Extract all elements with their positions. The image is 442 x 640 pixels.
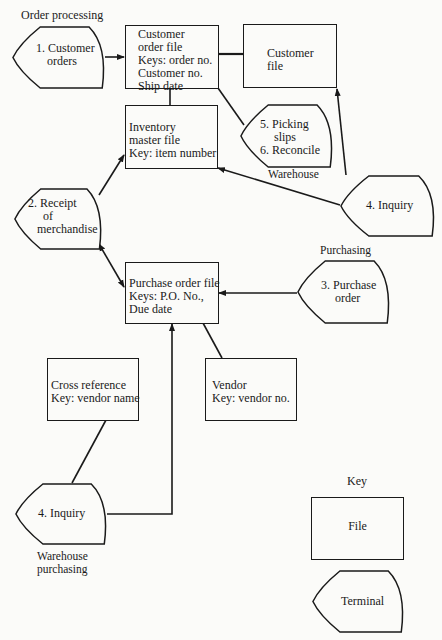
file-customer-file[interactable]: Customer file <box>243 24 337 88</box>
label-line: Warehouse <box>37 550 88 563</box>
terminal-text-line: orders <box>36 55 95 68</box>
file-inventory-master-file[interactable]: Inventory master file Key: item number <box>125 105 218 169</box>
file-customer-order-file[interactable]: Customer order file Keys: order no. Cust… <box>125 25 219 89</box>
terminal-inquiry-warehouse[interactable]: 4. Inquiry <box>340 175 436 237</box>
terminal-text-line: order <box>321 292 376 305</box>
connector-po-file-to-vendor <box>203 323 222 358</box>
legend-terminal-label: Terminal <box>341 595 384 608</box>
connector-receipt-to-purchase-order-file <box>99 244 124 287</box>
terminal-text-line: 2. Receipt <box>28 197 98 210</box>
file-text-line: Due date <box>129 303 216 316</box>
connector-cross-reference-to-inquiry <box>72 420 106 483</box>
file-text-line: Ship date <box>138 80 214 93</box>
connector-inquiry-to-customer-file <box>337 89 346 175</box>
terminal-purchase-order[interactable]: 3. Purchase order <box>297 260 391 324</box>
terminal-text-line: 4. Inquiry <box>38 507 85 520</box>
terminal-customer-orders[interactable]: 1. Customer orders <box>12 26 106 89</box>
terminal-inquiry-warehouse-purchasing[interactable]: 4. Inquiry <box>15 483 108 545</box>
terminal-receipt-of-merchandise[interactable]: 2. Receipt of merchandise <box>14 188 103 250</box>
legend-terminal-symbol: Terminal <box>312 570 405 633</box>
section-label-order-processing: Order processing <box>21 9 103 22</box>
section-label-warehouse: Warehouse <box>268 168 319 181</box>
terminal-text-line: 6. Reconcile <box>260 144 320 157</box>
file-text-line: Key: vendor no. <box>212 392 294 405</box>
file-vendor[interactable]: Vendor Key: vendor no. <box>205 358 297 421</box>
legend-file-symbol: File <box>311 497 404 560</box>
section-label-warehouse-purchasing: Warehouse purchasing <box>37 550 88 576</box>
terminal-picking-reconcile[interactable]: 5. Picking slips 6. Reconcile <box>240 104 334 168</box>
file-cross-reference[interactable]: Cross reference Key: vendor name <box>47 358 139 421</box>
legend-title: Key <box>347 475 367 488</box>
label-line: purchasing <box>37 563 88 576</box>
file-text-line: Key: vendor name <box>51 392 136 405</box>
terminal-text-line: merchandise <box>28 223 98 236</box>
legend-file-label: File <box>312 520 403 533</box>
file-text-line: file <box>267 60 332 73</box>
terminal-text-line: 4. Inquiry <box>366 199 413 212</box>
file-text-line: Key: item number <box>129 147 215 160</box>
section-label-purchasing: Purchasing <box>320 244 371 257</box>
file-purchase-order-file[interactable]: Purchase order file Keys: P.O. No., Due … <box>125 262 219 324</box>
